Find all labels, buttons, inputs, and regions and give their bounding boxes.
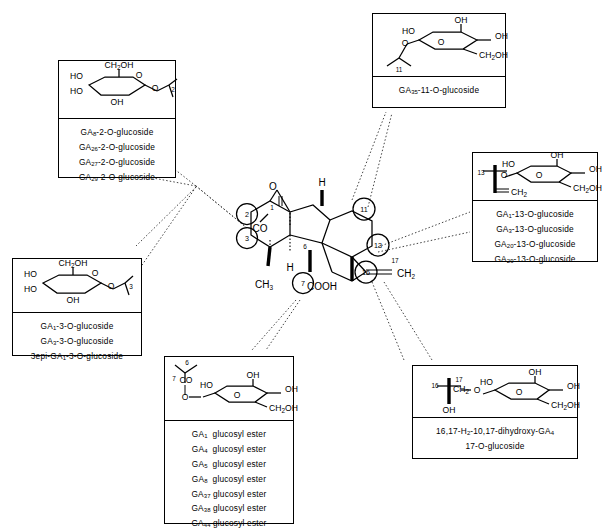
figure-canvas: O CO CH3 H H COOH CH2 17 [0,0,605,532]
panel-3-o-glucoside: CH2OH HO HO OH O O 3 GA1-3-O-glucoside G… [12,258,142,356]
svg-text:2: 2 [245,210,249,219]
list-item: GA37 glucosyl ester [165,488,293,503]
svg-text:CH2: CH2 [511,187,527,198]
svg-text:CH2OH: CH2OH [59,258,88,269]
list-item: GA29-2-O-glucoside [59,171,175,186]
list-item: GA44 glucosyl ester [165,517,293,532]
svg-text:17: 17 [455,376,463,383]
label-c17: 17 [391,257,399,264]
list-item: 3epi-GA1-3-O-glucoside [13,350,141,365]
svg-text:O: O [108,281,115,291]
svg-text:11: 11 [396,66,403,73]
svg-text:OH: OH [455,15,468,25]
list-item: GA1-3-O-glucoside [13,320,141,335]
svg-text:OH: OH [567,381,580,391]
panel-11-o-glucoside: OH HO OH CH2OH O O 11 GA35-11-O-glucosid… [372,13,506,108]
svg-text:O: O [402,38,409,48]
list-item: GA3-3-O-glucoside [13,335,141,350]
svg-text:11: 11 [360,205,367,214]
list-item: GA5 glucosyl ester [165,458,293,473]
svg-text:O: O [152,83,159,93]
svg-text:O: O [438,37,445,47]
svg-text:HO: HO [24,284,37,294]
list-glucosyl-ester: GA1 glucosyl ester GA4 glucosyl ester GA… [165,421,293,532]
list-item: GA20-13-O-glucoside [473,238,597,253]
svg-text:CH2OH: CH2OH [269,403,298,414]
structure-3-o-glucoside: CH2OH HO HO OH O O 3 [13,259,141,313]
svg-text:HO: HO [24,269,37,279]
label-methyl: CH3 [255,279,273,291]
svg-text:16: 16 [431,382,439,389]
list-item: GA4 glucosyl ester [165,443,293,458]
svg-text:O: O [501,170,508,180]
svg-text:CH2OH: CH2OH [105,60,134,71]
list-3-o-glucoside: GA1-3-O-glucoside GA3-3-O-glucoside 3epi… [13,313,141,372]
panel-13-o-glucoside: OH HO OH CH2OH O O 13 CH2 GA1-13-O-gluco… [472,152,598,262]
svg-text:O: O [474,385,481,395]
svg-text:CH2OH: CH2OH [479,50,508,61]
svg-text:OH: OH [111,97,124,107]
svg-text:CH2OH: CH2OH [573,183,602,194]
structure-2-o-glucoside: CH2OH HO HO OH O O 2 [59,61,175,119]
svg-text:OH: OH [495,31,508,41]
panel-17-o-glucoside: OH HO OH CH2OH O O CH2 16 17 OH 16,17-H2… [412,365,578,459]
list-item: GA29-13-O-glucoside [473,253,597,268]
svg-text:16: 16 [362,268,370,277]
svg-text:13: 13 [477,169,485,176]
panel-glucosyl-ester: OH HO OH CH2OH O O CO 7 6 GA1 glucosyl e… [164,356,294,524]
svg-text:13: 13 [374,241,382,250]
svg-text:O: O [92,268,99,278]
structure-11-o-glucoside: OH HO OH CH2OH O O 11 [373,14,505,77]
list-item: GA8 glucosyl ester [165,473,293,488]
list-item: GA3-13-O-glucoside [473,223,597,238]
svg-text:CH2OH: CH2OH [551,400,580,411]
svg-text:OH: OH [443,405,456,415]
list-13-o-glucoside: GA1-13-O-glucoside GA3-13-O-glucoside GA… [473,201,597,275]
svg-text:CO: CO [180,375,193,385]
svg-text:OH: OH [529,367,542,377]
structure-glucosyl-ester: OH HO OH CH2OH O O CO 7 6 [165,357,293,421]
svg-text:6: 6 [185,359,189,366]
label-h-top: H [318,177,325,188]
label-ketone-oxygen: O [269,181,277,192]
list-item: GA1-13-O-glucoside [473,208,597,223]
svg-text:3: 3 [129,283,133,290]
svg-text:OH: OH [67,295,80,305]
svg-text:2: 2 [171,86,175,93]
svg-text:7: 7 [172,375,176,382]
caption-line: 17-O-glucoside [413,440,577,452]
position-marker-1: 1 [270,204,274,211]
list-item: GA1 glucosyl ester [165,428,293,443]
panel-2-o-glucoside: CH2OH HO HO OH O O 2 GA8-2-O-glucoside G… [58,60,176,178]
svg-text:HO: HO [502,159,515,169]
svg-text:OH: OH [285,384,298,394]
svg-text:OH: OH [551,150,564,160]
caption-line: 16,17-H2-10,17-dihydroxy-GA4 [413,425,577,440]
svg-text:OH: OH [247,370,260,380]
svg-text:O: O [182,392,189,402]
list-11-o-glucoside: GA35-11-O-glucoside [373,77,505,106]
label-h-ring: H [286,262,293,273]
svg-text:OH: OH [589,164,602,174]
position-marker-6: 6 [303,243,307,250]
list-17-o-glucoside: 16,17-H2-10,17-dihydroxy-GA4 17-O-glucos… [413,418,577,459]
svg-text:O: O [536,170,543,180]
svg-text:7: 7 [301,279,305,288]
svg-text:3: 3 [245,234,249,243]
svg-text:HO: HO [70,71,83,81]
svg-text:O: O [234,390,241,400]
list-item: GA27-2-O-glucoside [59,156,175,171]
svg-text:HO: HO [200,380,213,390]
svg-text:O: O [516,387,523,397]
label-exo-methylene: CH2 [397,268,415,280]
svg-text:O: O [136,70,143,80]
svg-text:CH2: CH2 [453,384,469,395]
svg-text:HO: HO [70,86,83,96]
svg-text:HO: HO [402,26,415,36]
label-carboxyl: COOH [307,281,337,292]
list-2-o-glucoside: GA8-2-O-glucoside GA26-2-O-glucoside GA2… [59,119,175,193]
list-item: GA38 glucosyl ester [165,502,293,517]
structure-13-o-glucoside: OH HO OH CH2OH O O 13 CH2 [473,153,597,201]
list-item: GA35-11-O-glucoside [373,84,505,99]
list-item: GA8-2-O-glucoside [59,126,175,141]
